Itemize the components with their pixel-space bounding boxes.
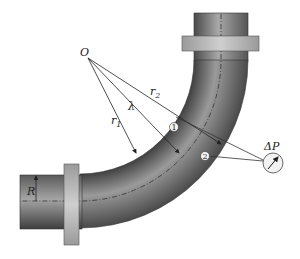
pressure-difference-label: ΔP bbox=[263, 140, 280, 153]
pressure-tap-1-label: 1 bbox=[172, 123, 177, 132]
left-flange bbox=[64, 164, 79, 245]
pressure-tap-2-label: 2 bbox=[203, 152, 208, 161]
top-flange bbox=[182, 36, 259, 51]
pipe-radius-label: R bbox=[26, 185, 35, 198]
origin-label: O bbox=[80, 46, 89, 59]
outer-radius-label: r2 bbox=[150, 85, 160, 100]
pipe-bend bbox=[80, 60, 248, 228]
center-radius-label: λ bbox=[127, 100, 135, 113]
pipe-bend-diagram: R O r1 λ r2 1 2 ΔP bbox=[0, 0, 300, 259]
inner-radius-label: r1 bbox=[111, 114, 121, 129]
